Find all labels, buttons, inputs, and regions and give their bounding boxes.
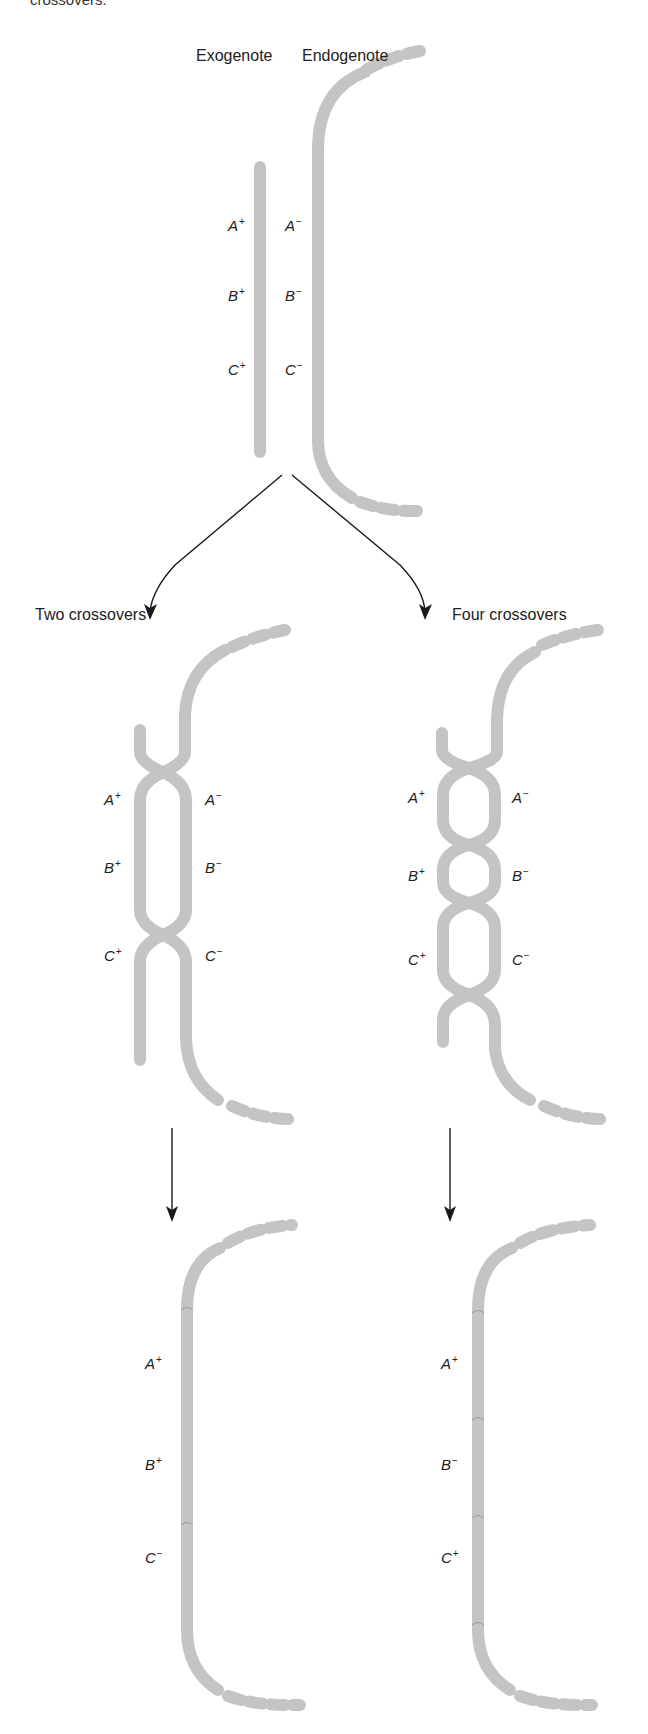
left-branch-arrow: [150, 475, 282, 612]
gene-label: B+: [145, 1455, 162, 1473]
top-endogenote-strand: [318, 51, 420, 511]
gene-label: C−: [512, 950, 530, 968]
two-crossovers-label: Two crossovers: [35, 606, 146, 624]
gene-label: A+: [104, 790, 121, 808]
gene-label: A+: [145, 1354, 162, 1372]
gene-label: C+: [228, 360, 246, 378]
gene-label: B−: [512, 866, 529, 884]
gene-label: A+: [228, 216, 245, 234]
gene-label: B−: [441, 1455, 458, 1473]
gene-label: B+: [408, 866, 425, 884]
gene-label: B−: [285, 286, 302, 304]
gene-label: C+: [408, 950, 426, 968]
gene-label: A−: [512, 788, 529, 806]
gene-label: B−: [205, 858, 222, 876]
result-two-crossovers-strand: [187, 1225, 300, 1705]
gene-label: A−: [205, 790, 222, 808]
gene-label: C−: [205, 946, 223, 964]
gene-label: B+: [228, 286, 245, 304]
result-four-crossovers-strand: [478, 1225, 592, 1705]
recombination-diagram: [0, 0, 648, 1734]
gene-label: C−: [145, 1548, 163, 1566]
gene-label: C+: [441, 1548, 459, 1566]
gene-label: A+: [408, 788, 425, 806]
gene-label: B+: [104, 858, 121, 876]
gene-label: C−: [285, 360, 303, 378]
exogenote-label: Exogenote: [196, 47, 273, 65]
gene-label: A−: [285, 216, 302, 234]
right-branch-arrow: [292, 475, 425, 612]
four-crossovers-label: Four crossovers: [452, 606, 567, 624]
arrowhead-icon: [419, 604, 432, 620]
gene-label: A+: [441, 1354, 458, 1372]
gene-label: C+: [104, 946, 122, 964]
branch-arrows: [150, 475, 450, 1215]
endogenote-label: Endogenote: [302, 47, 388, 65]
